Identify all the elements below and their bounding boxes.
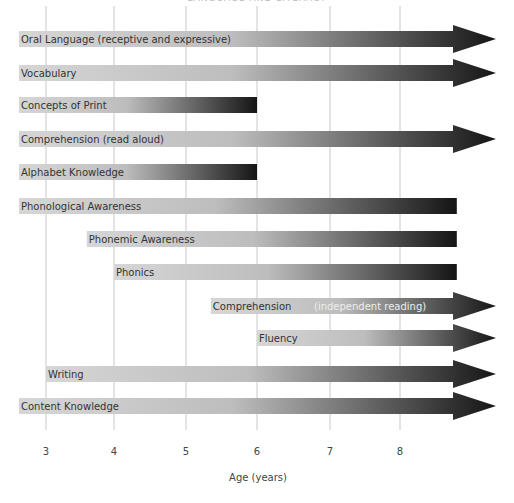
x-tick-label: 4: [111, 446, 117, 457]
x-tick-label: 5: [183, 446, 189, 457]
bar-label: Oral Language (receptive and expressive): [21, 34, 231, 45]
bar-label: Comprehension: [213, 301, 292, 312]
timeline-bar: Phonemic Awareness: [87, 231, 457, 247]
timeline-bar: Alphabet Knowledge: [19, 164, 257, 180]
bar-label: Phonological Awareness: [21, 201, 141, 212]
x-tick-label: 3: [43, 446, 49, 457]
x-axis-label: Age (years): [229, 472, 287, 483]
timeline-bar: Comprehension(independent reading): [211, 292, 496, 320]
x-tick-label: 7: [327, 446, 333, 457]
bar: [114, 264, 457, 280]
x-tick-label: 8: [397, 446, 403, 457]
timeline-bar: Phonics: [114, 264, 457, 280]
bar-label: Phonics: [116, 267, 154, 278]
x-axis-ticks: 345678: [43, 446, 403, 457]
timeline-bar: Fluency: [257, 324, 496, 352]
timeline-bar: Phonological Awareness: [19, 198, 457, 214]
development-timeline-diagram: Oral Language (receptive and expressive)…: [0, 0, 514, 503]
x-tick-label: 6: [254, 446, 260, 457]
bar-label: Concepts of Print: [21, 100, 107, 111]
bar-label: Phonemic Awareness: [89, 234, 195, 245]
bar-label: Writing: [48, 369, 84, 380]
bar-label: Vocabulary: [21, 68, 77, 79]
bar-sublabel: (independent reading): [314, 301, 426, 312]
bar-label: Comprehension (read aloud): [21, 134, 164, 145]
bar-label: Alphabet Knowledge: [21, 167, 124, 178]
timeline-bar: Concepts of Print: [19, 97, 257, 113]
bar-label: Content Knowledge: [21, 401, 119, 412]
bar-label: Fluency: [259, 333, 298, 344]
